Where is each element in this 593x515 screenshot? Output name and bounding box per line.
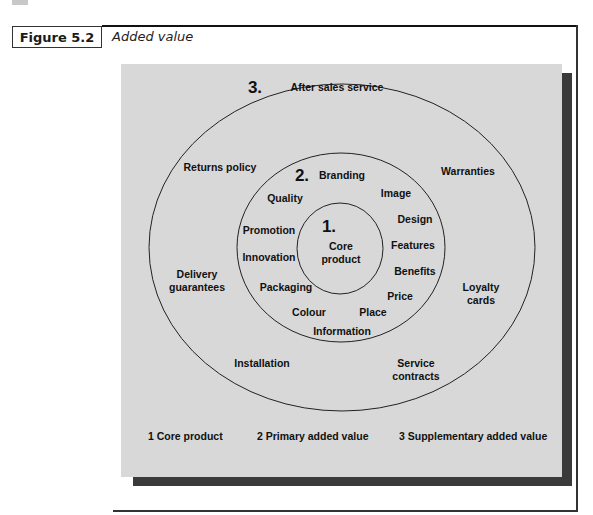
item-colour: Colour xyxy=(292,306,326,319)
core-line-1: Core xyxy=(321,240,360,253)
delivery-line-1: Delivery xyxy=(169,268,225,281)
item-delivery-guarantees: Delivery guarantees xyxy=(169,268,225,294)
item-promotion: Promotion xyxy=(243,224,296,237)
item-place: Place xyxy=(359,306,386,319)
item-design: Design xyxy=(397,213,432,226)
item-innovation: Innovation xyxy=(242,251,295,264)
item-benefits: Benefits xyxy=(394,265,435,278)
service-line-1: Service xyxy=(392,357,439,370)
ring-number-1: 1. xyxy=(322,217,336,237)
core-product-label: Core product xyxy=(321,240,360,266)
item-returns-policy: Returns policy xyxy=(184,161,257,174)
delivery-line-2: guarantees xyxy=(169,281,225,294)
ring-number-2: 2. xyxy=(295,166,309,186)
item-quality: Quality xyxy=(267,192,303,205)
item-installation: Installation xyxy=(234,357,289,370)
item-packaging: Packaging xyxy=(260,281,313,294)
ring-number-3: 3. xyxy=(248,78,262,98)
item-loyalty-cards: Loyalty cards xyxy=(463,281,500,307)
item-after-sales-service: After sales service xyxy=(291,81,384,94)
core-line-2: product xyxy=(321,253,360,266)
loyalty-line-1: Loyalty xyxy=(463,281,500,294)
legend-supplementary-added-value: 3 Supplementary added value xyxy=(399,430,547,442)
item-price: Price xyxy=(387,290,413,303)
item-features: Features xyxy=(391,239,435,252)
loyalty-line-2: cards xyxy=(463,294,500,307)
service-line-2: contracts xyxy=(392,370,439,383)
item-information: Information xyxy=(313,325,371,338)
item-warranties: Warranties xyxy=(441,165,495,178)
legend-primary-added-value: 2 Primary added value xyxy=(257,430,368,442)
item-branding: Branding xyxy=(319,169,365,182)
legend-core-product: 1 Core product xyxy=(148,430,223,442)
item-service-contracts: Service contracts xyxy=(392,357,439,383)
item-image: Image xyxy=(381,187,411,200)
